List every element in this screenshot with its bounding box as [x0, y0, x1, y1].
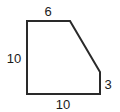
pentagon-diagram: 6 10 3 10 [0, 0, 120, 112]
pentagon-shape [27, 21, 100, 94]
bottom-side-label: 10 [56, 97, 70, 112]
right-side-label: 3 [104, 77, 111, 92]
left-side-label: 10 [7, 51, 21, 66]
top-side-label: 6 [44, 4, 51, 19]
